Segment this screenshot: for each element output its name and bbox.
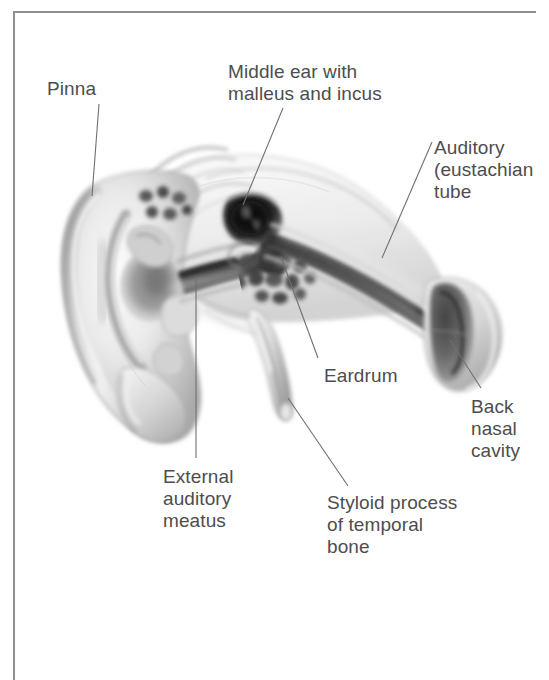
pinna-label: Pinna — [47, 78, 96, 100]
figure-page: Pinna Middle ear with malleus and incus … — [0, 0, 549, 680]
pinna-structure — [62, 171, 201, 442]
back-nasal-cavity-label: Back nasal cavity — [471, 396, 520, 462]
external-auditory-meatus-label: External auditory meatus — [163, 466, 234, 532]
nasopharynx — [424, 278, 502, 391]
styloid-process-label: Styloid process of temporal bone — [327, 492, 457, 558]
auditory-tube-label: Auditory (eustachian tube — [434, 137, 533, 203]
middle-ear-label: Middle ear with malleus and incus — [228, 61, 382, 105]
eardrum-label: Eardrum — [324, 365, 398, 387]
